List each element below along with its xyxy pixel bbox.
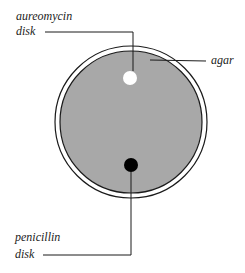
aureomycin-disk — [123, 71, 137, 85]
penicillin-disk — [124, 158, 138, 172]
aureomycin-label-line2: disk — [16, 24, 36, 38]
aureomycin-label-line1: aureomycin — [16, 9, 72, 23]
penicillin-label-line2: disk — [15, 247, 35, 261]
agar-label: agar — [211, 53, 234, 67]
petri-dish-diagram: aureomycin disk agar penicillin disk — [0, 0, 245, 273]
penicillin-label-line1: penicillin — [14, 230, 60, 244]
